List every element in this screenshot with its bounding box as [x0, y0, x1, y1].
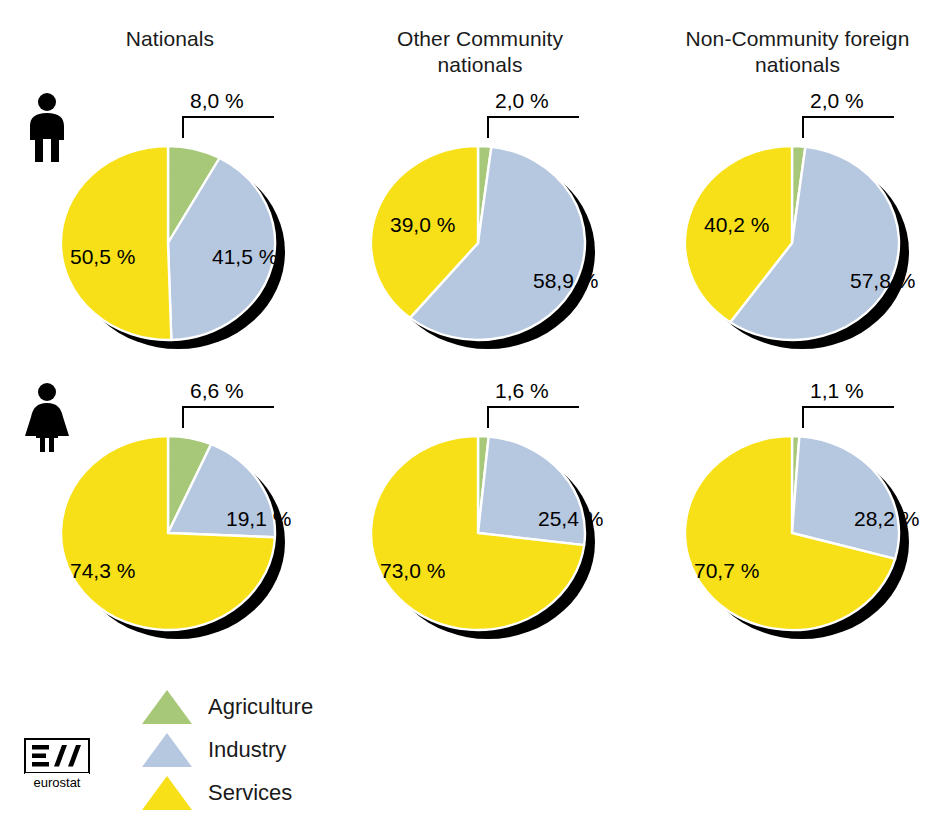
slice-value-industry: 19,1 % — [226, 508, 291, 529]
callout-agriculture: 6,6 % — [168, 380, 318, 426]
callout-rule — [802, 406, 894, 408]
column-header-other-community-nationals: Other Community nationals — [365, 26, 595, 78]
callout-tick — [182, 116, 184, 138]
column-header-non-community-foreign-nationals: Non-Community foreign nationals — [680, 26, 915, 78]
slice-value-services: 50,5 % — [70, 246, 135, 267]
legend: Agriculture Industry Services — [140, 686, 440, 815]
triangle-marker-icon — [140, 688, 194, 726]
slice-value-industry: 57,8 % — [850, 270, 915, 291]
legend-label-services: Services — [208, 778, 292, 808]
pie-graphic — [358, 118, 658, 388]
callout-agriculture: 1,1 % — [788, 380, 938, 426]
pie-chart: 58,9 %39,0 % — [358, 118, 658, 388]
callout-rule — [487, 116, 579, 118]
slice-value-services: 73,0 % — [380, 560, 445, 581]
callout-tick — [182, 406, 184, 428]
slice-value-industry: 25,4 % — [538, 508, 603, 529]
pie-chart: 19,1 %74,3 % — [48, 408, 348, 678]
slice-value-industry: 58,9 % — [533, 270, 598, 291]
slice-value-agriculture: 8,0 % — [190, 90, 244, 112]
callout-rule — [182, 406, 274, 408]
slice-value-agriculture: 1,1 % — [810, 380, 864, 402]
callout-agriculture: 8,0 % — [168, 90, 318, 136]
callout-tick — [802, 116, 804, 138]
legend-item-industry: Industry — [140, 729, 440, 772]
slice-value-services: 40,2 % — [704, 214, 769, 235]
callout-rule — [802, 116, 894, 118]
slice-value-agriculture: 2,0 % — [495, 90, 549, 112]
pie-graphic — [48, 408, 348, 678]
callout-tick — [802, 406, 804, 428]
triangle-marker-icon — [140, 774, 194, 812]
slice-value-agriculture: 1,6 % — [495, 380, 549, 402]
callout-rule — [487, 406, 579, 408]
callout-tick — [487, 406, 489, 428]
callout-agriculture: 2,0 % — [788, 90, 938, 136]
pie-chart: 41,5 %50,5 % — [48, 118, 348, 388]
legend-item-services: Services — [140, 772, 440, 815]
slice-value-services: 39,0 % — [390, 214, 455, 235]
pie-chart: 28,2 %70,7 % — [672, 408, 945, 678]
slice-value-industry: 28,2 % — [854, 508, 919, 529]
pie-graphic — [672, 408, 945, 678]
svg-text:eurostat: eurostat — [34, 775, 81, 790]
legend-label-industry: Industry — [208, 735, 286, 765]
pie-graphic — [358, 408, 658, 678]
triangle-marker-icon — [140, 731, 194, 769]
pie-chart: 25,4 %73,0 % — [358, 408, 658, 678]
slice-value-industry: 41,5 % — [212, 246, 277, 267]
slice-value-services: 70,7 % — [694, 560, 759, 581]
slice-value-services: 74,3 % — [70, 560, 135, 581]
pie-chart: 57,8 %40,2 % — [672, 118, 945, 388]
callout-tick — [487, 116, 489, 138]
callout-rule — [182, 116, 274, 118]
callout-agriculture: 2,0 % — [473, 90, 623, 136]
legend-item-agriculture: Agriculture — [140, 686, 440, 729]
eurostat-logo: eurostat — [24, 738, 90, 790]
pie-slice-services — [61, 146, 171, 340]
eurostat-employment-pie-figure: Nationals Other Community nationals Non-… — [0, 0, 945, 821]
column-header-nationals: Nationals — [60, 26, 280, 52]
callout-agriculture: 1,6 % — [473, 380, 623, 426]
legend-label-agriculture: Agriculture — [208, 692, 313, 722]
slice-value-agriculture: 2,0 % — [810, 90, 864, 112]
pie-graphic — [672, 118, 945, 388]
slice-value-agriculture: 6,6 % — [190, 380, 244, 402]
